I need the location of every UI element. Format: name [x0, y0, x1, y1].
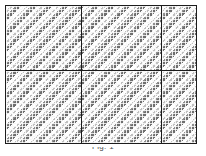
figure-root: Fig. 1	[0, 0, 206, 156]
division-rule-vertical-2	[161, 6, 162, 143]
figure-caption-text: Fig. 1	[92, 147, 114, 151]
figure-caption: Fig. 1	[0, 147, 206, 156]
weave-pattern-plate	[5, 5, 197, 144]
division-rule-vertical-1	[81, 6, 82, 143]
division-rule-horizontal-1	[6, 70, 196, 71]
draft-stepping-mask-layer	[6, 6, 196, 143]
